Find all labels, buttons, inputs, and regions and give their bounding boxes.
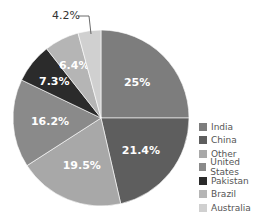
slice-label: 25% xyxy=(124,76,150,89)
legend-item-united-states: United States xyxy=(199,161,266,175)
legend-item-china: China xyxy=(199,134,266,148)
pie-slice-india xyxy=(101,30,189,118)
legend-swatch xyxy=(199,204,207,212)
legend-swatch xyxy=(199,177,207,185)
legend-swatch xyxy=(199,190,207,198)
legend-item-india: India xyxy=(199,120,266,134)
slice-label: 21.4% xyxy=(122,144,160,157)
slice-label: 6.4% xyxy=(59,59,90,72)
legend-item-australia: Australia xyxy=(199,201,266,215)
legend-swatch xyxy=(199,163,206,171)
legend-swatch xyxy=(199,150,207,158)
legend-swatch xyxy=(199,123,207,131)
slice-label: 16.2% xyxy=(31,115,69,128)
slice-label: 19.5% xyxy=(63,159,101,172)
australia-callout-label: 4.2% xyxy=(52,9,80,22)
legend-item-brazil: Brazil xyxy=(199,188,266,202)
legend: India China Other United States Pakistan… xyxy=(199,120,266,215)
legend-swatch xyxy=(199,136,207,144)
slice-label: 7.3% xyxy=(39,75,70,88)
